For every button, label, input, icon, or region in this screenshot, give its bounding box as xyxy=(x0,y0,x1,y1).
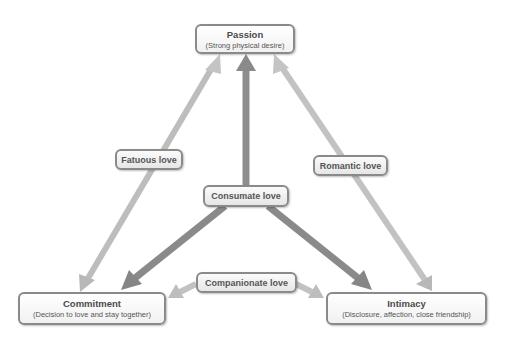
commitment-title: Commitment xyxy=(20,298,164,310)
consumate-love-label: Consumate love xyxy=(203,185,289,207)
passion-node: Passion (Strong physical desire) xyxy=(195,24,295,54)
fatuous-love-label: Fatuous love xyxy=(115,149,183,170)
passion-subtitle: (Strong physical desire) xyxy=(197,41,293,51)
passion-title: Passion xyxy=(197,29,293,41)
intimacy-subtitle: (Disclosure, affection, close friendship… xyxy=(328,310,485,320)
commitment-subtitle: (Decision to love and stay together) xyxy=(20,310,164,320)
fatuous-love-arrow xyxy=(79,54,221,292)
intimacy-title: Intimacy xyxy=(328,298,485,310)
consumate-to-passion-arrow xyxy=(236,54,256,185)
companionate-love-label: Companionate love xyxy=(196,272,297,293)
romantic-love-label: Romantic love xyxy=(313,155,388,176)
intimacy-node: Intimacy (Disclosure, affection, close f… xyxy=(326,292,487,325)
commitment-node: Commitment (Decision to love and stay to… xyxy=(18,292,166,325)
